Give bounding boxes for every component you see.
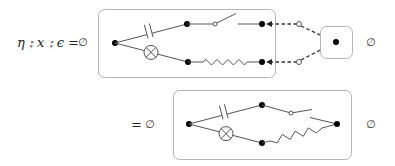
equation-bottom-equals: =	[131, 117, 142, 132]
string-diagram-canvas: η ⨟ x ⨟ ϵ = ∅	[0, 0, 395, 166]
top-right-upper-node	[259, 21, 265, 27]
equation-top-lhs: η ⨟ x ⨟ ϵ	[17, 35, 65, 50]
top-right-lower-node	[259, 59, 265, 65]
top-box-frame	[99, 10, 276, 78]
empty-set-bottom-left: ∅	[145, 118, 155, 131]
cup-node	[333, 39, 339, 45]
empty-set-top-left: ∅	[78, 36, 88, 49]
bottom-right-node	[334, 121, 340, 127]
bottom-box-frame	[174, 91, 352, 160]
top-circuit-box	[99, 10, 276, 78]
cup-box	[321, 27, 353, 59]
empty-set-bottom-right: ∅	[366, 118, 376, 131]
open-terminal-upper	[297, 22, 302, 27]
empty-set-top-right: ∅	[366, 36, 376, 49]
open-terminal-lower	[297, 60, 302, 65]
bottom-circuit-box	[174, 91, 352, 160]
